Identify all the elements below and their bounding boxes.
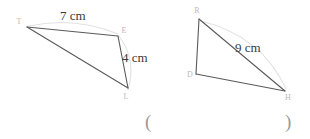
right-triangle-side-rh <box>199 19 285 91</box>
right-triangle-vertex-label-h: H <box>285 93 291 102</box>
left-triangle-measure-4cm: 4 cm <box>122 50 148 65</box>
left-triangle: T E L 7 cm 4 cm <box>17 8 148 101</box>
right-triangle: R D H 9 cm <box>187 6 291 102</box>
geometry-figure: T E L 7 cm 4 cm R D H 9 cm ( ) <box>0 0 310 139</box>
right-triangle-vertex-label-r: R <box>194 6 200 15</box>
right-triangle-measure-9cm: 9 cm <box>235 40 261 55</box>
right-triangle-side-dh <box>196 74 285 91</box>
figure-canvas: T E L 7 cm 4 cm R D H 9 cm ( ) <box>0 0 310 139</box>
left-triangle-vertex-label-e: E <box>122 26 127 35</box>
left-triangle-vertex-label-l: L <box>124 92 129 101</box>
right-triangle-vertex-label-d: D <box>187 70 193 79</box>
right-triangle-side-rd <box>196 19 199 74</box>
right-parenthesis: ) <box>285 111 291 133</box>
left-triangle-side-lt <box>27 27 128 88</box>
left-triangle-vertex-label-t: T <box>17 17 22 26</box>
left-triangle-measure-7cm: 7 cm <box>60 8 86 23</box>
left-parenthesis: ( <box>145 111 151 133</box>
